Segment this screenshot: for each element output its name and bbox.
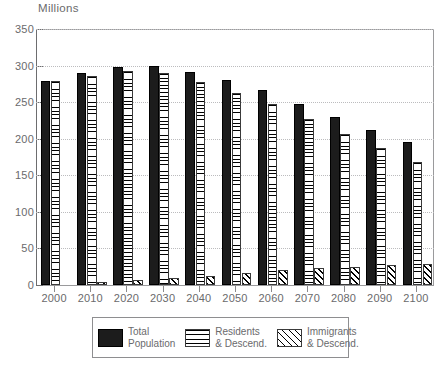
bar-immigrants-2050[interactable] bbox=[242, 273, 252, 285]
x-tick-label-2100: 2100 bbox=[403, 292, 428, 304]
bar-residents-2030[interactable] bbox=[159, 73, 169, 285]
x-tick-label-2000: 2000 bbox=[41, 292, 66, 304]
bar-group-2020 bbox=[113, 29, 143, 285]
y-tick-label-250: 250 bbox=[0, 96, 34, 108]
chart-legend: TotalPopulationResidents& Descend.Immigr… bbox=[92, 317, 349, 358]
chart-root: Millions 050100150200250300350 200020102… bbox=[0, 0, 445, 374]
bar-immigrants-2020[interactable] bbox=[133, 280, 143, 285]
bar-residents-2000[interactable] bbox=[51, 81, 61, 285]
bar-residents-2100[interactable] bbox=[413, 162, 423, 285]
bar-immigrants-2060[interactable] bbox=[278, 270, 288, 285]
x-tick-label-2060: 2060 bbox=[259, 292, 284, 304]
bar-total-2100[interactable] bbox=[403, 142, 413, 285]
bar-group-2080 bbox=[330, 29, 360, 285]
legend-label-line1: Total bbox=[128, 326, 175, 338]
bar-residents-2090[interactable] bbox=[376, 148, 386, 285]
bar-residents-2080[interactable] bbox=[340, 134, 350, 285]
bar-immigrants-2030[interactable] bbox=[169, 278, 179, 285]
x-tick-label-2030: 2030 bbox=[150, 292, 175, 304]
legend-label-line1: Residents bbox=[215, 326, 267, 338]
legend-label-line2: & Descend. bbox=[307, 338, 359, 350]
bar-immigrants-2040[interactable] bbox=[206, 276, 216, 286]
solid-black-swatch bbox=[98, 329, 123, 347]
bars-layer bbox=[36, 29, 434, 285]
bar-residents-2050[interactable] bbox=[232, 93, 242, 285]
x-tick-label-2080: 2080 bbox=[331, 292, 356, 304]
bar-group-2060 bbox=[258, 29, 288, 285]
legend-label-line2: Population bbox=[128, 338, 175, 350]
diagonal-hatch-swatch bbox=[277, 329, 302, 347]
x-tick-label-2070: 2070 bbox=[295, 292, 320, 304]
horizontal-lines-swatch bbox=[185, 329, 210, 347]
bar-total-2020[interactable] bbox=[113, 67, 123, 285]
bar-residents-2070[interactable] bbox=[304, 119, 314, 285]
bar-group-2000 bbox=[41, 29, 71, 285]
bar-group-2040 bbox=[185, 29, 215, 285]
y-tick-label-300: 300 bbox=[0, 60, 34, 72]
legend-label-line2: & Descend. bbox=[215, 338, 267, 350]
bar-total-2040[interactable] bbox=[185, 72, 195, 285]
bar-total-2010[interactable] bbox=[77, 73, 87, 285]
legend-item-residents[interactable]: Residents& Descend. bbox=[185, 326, 267, 349]
bar-group-2030 bbox=[149, 29, 179, 285]
bar-residents-2010[interactable] bbox=[87, 76, 97, 285]
bar-group-2090 bbox=[366, 29, 396, 285]
bar-total-2060[interactable] bbox=[258, 90, 268, 285]
bar-immigrants-2010[interactable] bbox=[97, 282, 107, 285]
bar-immigrants-2090[interactable] bbox=[387, 265, 397, 285]
x-tick-label-2010: 2010 bbox=[78, 292, 103, 304]
bar-residents-2020[interactable] bbox=[123, 71, 133, 285]
y-tick-label-50: 50 bbox=[0, 242, 34, 254]
bar-total-2090[interactable] bbox=[366, 130, 376, 285]
bar-immigrants-2100[interactable] bbox=[423, 264, 433, 285]
legend-label-immigrants: Immigrants& Descend. bbox=[307, 326, 359, 349]
bar-residents-2060[interactable] bbox=[268, 104, 278, 285]
bar-total-2030[interactable] bbox=[149, 66, 159, 285]
bar-total-2070[interactable] bbox=[294, 104, 304, 285]
legend-label-line1: Immigrants bbox=[307, 326, 359, 338]
x-tick-label-2020: 2020 bbox=[114, 292, 139, 304]
y-tick-label-0: 0 bbox=[0, 279, 34, 291]
y-tick-label-100: 100 bbox=[0, 206, 34, 218]
x-tick-label-2040: 2040 bbox=[186, 292, 211, 304]
x-tick-label-2050: 2050 bbox=[222, 292, 247, 304]
y-tick-label-200: 200 bbox=[0, 133, 34, 145]
y-tick-mark-0 bbox=[36, 285, 43, 286]
bar-total-2000[interactable] bbox=[41, 81, 51, 285]
bar-group-2050 bbox=[222, 29, 252, 285]
y-tick-label-350: 350 bbox=[0, 23, 34, 35]
legend-item-immigrants[interactable]: Immigrants& Descend. bbox=[277, 326, 359, 349]
y-tick-label-150: 150 bbox=[0, 169, 34, 181]
bar-total-2050[interactable] bbox=[222, 80, 232, 285]
bar-group-2070 bbox=[294, 29, 324, 285]
bar-residents-2040[interactable] bbox=[196, 82, 206, 285]
legend-item-total[interactable]: TotalPopulation bbox=[98, 326, 175, 349]
legend-label-total: TotalPopulation bbox=[128, 326, 175, 349]
bar-total-2080[interactable] bbox=[330, 117, 340, 285]
y-axis-title: Millions bbox=[38, 2, 79, 14]
bar-immigrants-2080[interactable] bbox=[350, 267, 360, 285]
bar-group-2100 bbox=[403, 29, 433, 285]
legend-label-residents: Residents& Descend. bbox=[215, 326, 267, 349]
bar-group-2010 bbox=[77, 29, 107, 285]
x-tick-label-2090: 2090 bbox=[367, 292, 392, 304]
bar-immigrants-2070[interactable] bbox=[314, 268, 324, 285]
